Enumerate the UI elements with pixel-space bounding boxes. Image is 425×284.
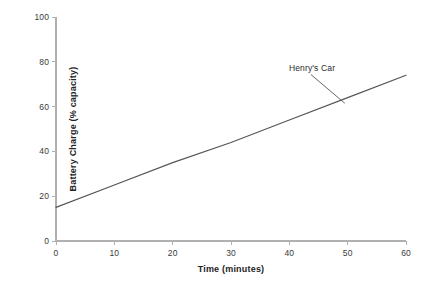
x-tick-label: 60	[401, 248, 411, 258]
x-tick-label: 0	[54, 248, 59, 258]
x-tick-label: 50	[343, 248, 353, 258]
y-tick-label: 20	[0, 191, 49, 201]
x-axis-title: Time (minutes)	[198, 264, 265, 274]
y-axis-title: Battery Charge (% capacity)	[68, 67, 78, 192]
y-tick-label: 60	[0, 102, 49, 112]
x-tick-label: 20	[168, 248, 178, 258]
axis-lines	[56, 17, 406, 241]
annotation-leader-line	[311, 75, 345, 104]
x-tick-label: 40	[285, 248, 295, 258]
plot-canvas	[0, 0, 425, 284]
x-tick-marks	[56, 241, 406, 245]
x-tick-label: 10	[110, 248, 120, 258]
annotation-label-henrys-car: Henry's Car	[289, 63, 335, 73]
y-tick-label: 100	[0, 12, 49, 22]
y-tick-marks	[52, 17, 56, 241]
chart-figure: 0102030405060 020406080100 Time (minutes…	[0, 0, 425, 284]
y-tick-label: 40	[0, 146, 49, 156]
data-line-henrys-car	[56, 75, 406, 207]
y-tick-label: 80	[0, 57, 49, 67]
y-tick-label: 0	[0, 236, 49, 246]
x-tick-label: 30	[226, 248, 236, 258]
